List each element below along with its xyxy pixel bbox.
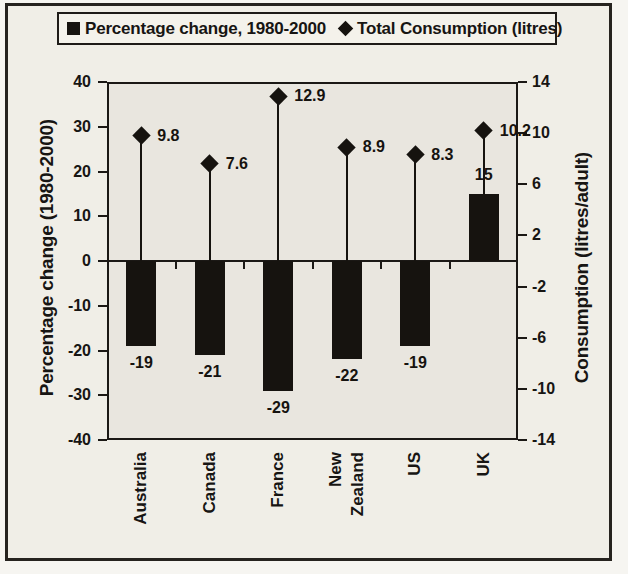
category-label-new-zealand: New Zealand [325,452,369,546]
right-axis-tick-label: 14 [532,72,578,92]
point-value-label: 8.3 [431,145,453,165]
category-axis-tick [380,261,382,269]
left-axis-tick-label: 30 [45,117,91,137]
marker-drop-line [277,96,279,261]
left-axis-tick [98,81,107,83]
category-axis-tick [175,261,177,269]
left-axis-tick [98,439,107,441]
right-axis-tick-label: -14 [532,430,578,450]
left-axis-tick [98,126,107,128]
right-axis-tick-label: -10 [532,379,578,399]
left-axis-tick-label: -20 [45,341,91,361]
bar-value-label: -21 [183,361,237,383]
right-axis-tick-label: -2 [532,277,578,297]
category-label-france: France [267,452,289,508]
left-axis-tick-label: 40 [45,72,91,92]
right-axis-tick-label: 2 [532,225,578,245]
category-label-us: US [404,452,426,476]
left-axis-tick [98,171,107,173]
point-value-label: 12.9 [294,86,325,106]
bar-new-zealand [332,261,362,359]
bar-us [400,261,430,346]
right-axis-tick [518,81,527,83]
category-axis-tick [449,261,451,269]
right-axis-tick-label: 10 [532,123,578,143]
right-axis-tick [518,439,527,441]
category-axis-tick [243,261,245,269]
point-value-label: 7.6 [226,154,248,174]
left-axis-tick [98,350,107,352]
right-axis-tick [518,234,527,236]
left-axis-tick [98,305,107,307]
legend-diamond-icon [338,21,354,37]
left-axis-tick-label: -40 [45,430,91,450]
right-axis-tick-label: 6 [532,174,578,194]
bar-value-label: -22 [320,365,374,387]
legend-label-percentage-change: Percentage change, 1980-2000 [85,19,326,39]
right-axis-tick [518,337,527,339]
legend-square-icon [67,22,80,35]
point-value-label: 9.8 [157,126,179,146]
left-axis-tick-label: 20 [45,162,91,182]
category-axis-tick [312,261,314,269]
marker-drop-line [483,131,485,261]
bar-value-label: -29 [251,397,305,419]
marker-drop-line [140,136,142,261]
point-value-label: 8.9 [363,137,385,157]
bar-canada [195,261,225,355]
right-axis-tick [518,286,527,288]
bar-value-label: -19 [388,352,442,374]
legend-label-total-consumption: Total Consumption (litres) [357,19,562,39]
left-axis-tick-label: 0 [45,251,91,271]
zero-axis-line [107,260,518,262]
bar-value-label: -19 [114,352,168,374]
marker-drop-line [209,164,211,261]
right-axis-tick [518,183,527,185]
bar-australia [126,261,156,346]
marker-drop-line [346,147,348,261]
category-label-australia: Australia [130,452,152,525]
marker-drop-line [414,155,416,261]
left-axis-tick [98,394,107,396]
bar-france [263,261,293,391]
chart-legend: Percentage change, 1980-2000 Total Consu… [57,12,557,45]
right-axis-tick-label: -6 [532,328,578,348]
category-label-uk: UK [473,452,495,477]
left-axis-tick [98,260,107,262]
left-axis-tick [98,215,107,217]
left-axis-tick-label: -10 [45,296,91,316]
right-axis-tick [518,388,527,390]
left-axis-tick-label: 10 [45,206,91,226]
category-label-canada: Canada [199,452,221,513]
left-axis-tick-label: -30 [45,385,91,405]
point-value-label: 10.2 [500,121,531,141]
